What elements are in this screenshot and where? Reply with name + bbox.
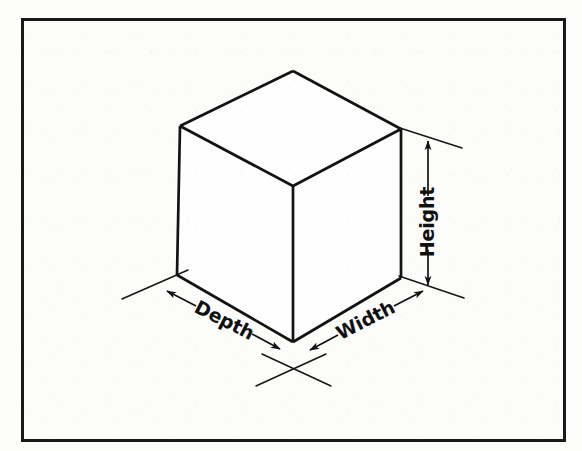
extension-line-depth-far	[122, 270, 188, 299]
height-dimension: Height	[416, 141, 438, 285]
width-dimension-line-outer	[394, 291, 423, 306]
depth-dimension-line-inner	[252, 334, 280, 349]
figure-page: Height Width Depth	[0, 0, 582, 451]
extension-line-depth-near	[256, 354, 326, 386]
isometric-cube-diagram: Height Width Depth	[0, 0, 582, 451]
extension-line-height-top	[400, 128, 462, 148]
depth-dimension-line-outer	[167, 291, 196, 306]
width-dimension-line-inner	[310, 335, 338, 350]
extension-line-width-near	[262, 354, 331, 386]
height-label: Height	[416, 187, 438, 257]
extension-line-height-bottom	[399, 276, 464, 298]
